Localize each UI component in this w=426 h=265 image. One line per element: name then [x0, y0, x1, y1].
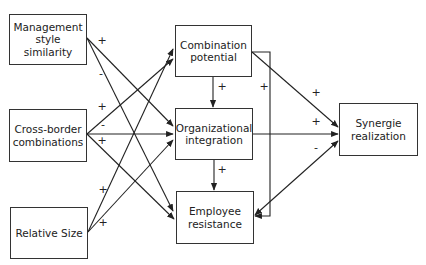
node-organizational-integration: Organizational integration	[175, 108, 253, 160]
causal-model-diagram: Management style similarity Cross-border…	[0, 0, 426, 265]
node-relative-size: Relative Size	[10, 207, 88, 259]
node-synergie-realization: Synergie realization	[339, 103, 418, 156]
node-employee-resistance: Employee resistance	[176, 191, 254, 244]
positive-sign-label: +	[259, 81, 268, 92]
node-combination-potential: Combination potential	[175, 25, 252, 77]
positive-sign-label: +	[217, 164, 226, 175]
node-cross-border-combinations: Cross-border combinations	[9, 109, 87, 162]
negative-sign-label: -	[99, 68, 103, 79]
positive-sign-label: +	[98, 184, 107, 195]
positive-sign-label: +	[98, 217, 107, 228]
edge-management-to-orgint	[87, 38, 173, 126]
edge-resistance-to-synergie	[255, 141, 338, 215]
negative-sign-label: -	[101, 119, 105, 130]
positive-sign-label: +	[311, 87, 320, 98]
positive-sign-label: +	[217, 81, 226, 92]
node-management-style-similarity: Management style similarity	[9, 14, 87, 65]
positive-sign-label: +	[97, 35, 106, 46]
negative-sign-label: -	[314, 142, 318, 153]
positive-sign-label: +	[97, 101, 106, 112]
positive-sign-label: +	[311, 116, 320, 127]
positive-sign-label: +	[97, 135, 106, 146]
